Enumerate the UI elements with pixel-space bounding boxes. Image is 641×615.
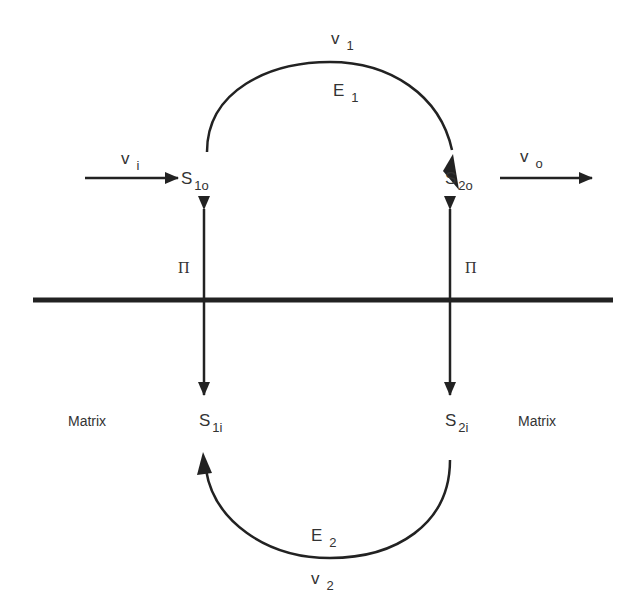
flux-v1: v1 (331, 30, 354, 47)
node-s2i-main: S (445, 411, 456, 430)
enzyme-e1-sub: 1 (351, 90, 358, 105)
flux-vi-main: v (121, 149, 130, 168)
node-s1i-main: S (199, 411, 210, 430)
enzyme-e2-sub: 2 (329, 535, 336, 550)
top-reaction-arc (207, 62, 452, 152)
enzyme-e2: E2 (311, 527, 337, 544)
node-s2o-main: S (445, 169, 456, 188)
node-s2i-sub: 2i (458, 420, 468, 435)
partition-left-label: Π (178, 260, 190, 276)
enzyme-e2-main: E (311, 526, 322, 545)
node-s2o-sub: 2o (458, 178, 472, 193)
node-s1o: S1o (181, 170, 209, 187)
enzyme-e1-main: E (333, 81, 344, 100)
flux-v1-main: v (331, 29, 340, 48)
bottom-arc-arrowhead (197, 452, 212, 475)
flux-v2-main: v (311, 569, 320, 588)
flux-vi-sub: i (137, 158, 140, 173)
node-s1i-sub: 1i (212, 420, 222, 435)
flux-vi: vi (121, 150, 139, 167)
flux-v2-sub: 2 (327, 578, 334, 593)
region-right-label: Matrix (518, 414, 556, 428)
flux-vo-sub: o (536, 156, 543, 171)
node-s1o-main: S (181, 169, 192, 188)
node-s2i: S2i (445, 412, 468, 429)
diagram-canvas (0, 0, 641, 615)
flux-v2: v2 (311, 570, 334, 587)
node-s2o: S2o (445, 170, 473, 187)
flux-vo: vo (520, 148, 543, 165)
region-left-label: Matrix (68, 414, 106, 428)
partition-right-label: Π (465, 260, 477, 276)
flux-vo-main: v (520, 147, 529, 166)
flux-v1-sub: 1 (347, 38, 354, 53)
enzyme-e1: E1 (333, 82, 359, 99)
node-s1i: S1i (199, 412, 222, 429)
node-s1o-sub: 1o (194, 178, 208, 193)
